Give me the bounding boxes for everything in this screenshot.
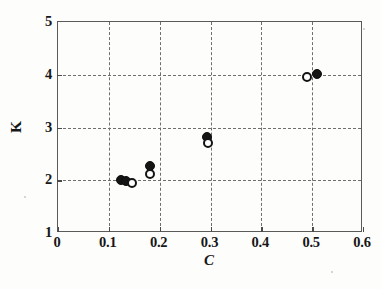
gridline-vertical <box>211 22 212 231</box>
x-axis-tick-label: 0.3 <box>201 234 219 251</box>
x-axis-tick <box>58 227 59 232</box>
x-axis-tick-label: 0.5 <box>302 234 320 251</box>
scan-speckle <box>363 28 365 30</box>
gridline-horizontal <box>58 128 361 129</box>
data-point-open <box>302 72 312 82</box>
data-point-open <box>203 138 213 148</box>
y-axis-title: K <box>7 121 25 133</box>
y-axis-tick-label: 1 <box>32 224 52 241</box>
data-point-open <box>127 178 137 188</box>
x-axis-tick-label: 0.4 <box>252 234 270 251</box>
data-point-filled <box>312 69 322 79</box>
gridline-vertical <box>312 22 313 231</box>
y-axis-tick-label: 5 <box>32 13 52 30</box>
scan-speckle <box>331 271 333 273</box>
x-axis-tick-label: 0.2 <box>150 234 168 251</box>
scan-speckle <box>24 196 26 198</box>
x-axis-title: C <box>204 252 214 269</box>
gridline-vertical <box>261 22 262 231</box>
x-axis-tick <box>160 227 161 232</box>
x-axis-tick-label: 0 <box>53 234 60 251</box>
x-axis-tick <box>211 227 212 232</box>
x-axis-tick <box>261 227 262 232</box>
y-axis-tick <box>57 75 62 76</box>
x-axis-tick <box>109 227 110 232</box>
x-axis-tick-label: 0.6 <box>353 234 371 251</box>
y-axis-tick-label: 3 <box>32 118 52 135</box>
y-axis-tick-label: 2 <box>32 171 52 188</box>
x-axis-tick <box>312 227 313 232</box>
x-axis-tick <box>363 227 364 232</box>
gridline-horizontal <box>58 180 361 181</box>
figure: C K 00.10.20.30.40.50.612345 <box>0 0 381 289</box>
y-axis-tick-label: 4 <box>32 65 52 82</box>
data-point-open <box>145 169 155 179</box>
y-axis-tick <box>57 180 62 181</box>
y-axis-tick <box>57 128 62 129</box>
gridline-vertical <box>160 22 161 231</box>
gridline-vertical <box>109 22 110 231</box>
plot-area <box>57 21 362 232</box>
x-axis-tick-label: 0.1 <box>99 234 117 251</box>
